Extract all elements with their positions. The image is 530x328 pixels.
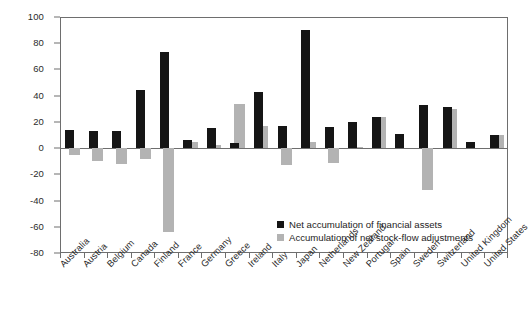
legend-label: Accumulation of net stock-flow adjustmen…	[289, 232, 473, 243]
legend-item-accumulation-of-net-stock-flow-adjustments: Accumulation of net stock-flow adjustmen…	[277, 232, 505, 243]
bar-net-financial-assets	[112, 131, 121, 148]
y-tick-label: 20	[33, 117, 44, 127]
legend-swatch-icon	[277, 234, 284, 241]
bar-stock-flow-adjustments	[422, 148, 433, 190]
y-tick-label: -40	[30, 196, 44, 206]
y-tick-label: -20	[30, 170, 44, 180]
chart-legend: Net accumulation of financial assets Acc…	[277, 219, 505, 243]
bar-net-financial-assets	[136, 90, 145, 148]
bar-stock-flow-adjustments	[140, 148, 151, 158]
bar-net-financial-assets	[466, 142, 475, 149]
bar-net-financial-assets	[89, 131, 98, 148]
y-tick-label: 60	[33, 65, 44, 75]
x-axis-labels: AustraliaAustriaBelgiumCanadaFinlandFran…	[0, 258, 525, 328]
bar-net-financial-assets	[490, 135, 499, 148]
bar-net-financial-assets	[348, 122, 357, 148]
bar-net-financial-assets	[443, 107, 452, 148]
y-tick-label: 0	[39, 143, 44, 153]
y-tick-label: -60	[30, 222, 44, 232]
bar-stock-flow-adjustments	[328, 148, 339, 162]
bar-stock-flow-adjustments	[92, 148, 103, 161]
bar-stock-flow-adjustments	[69, 148, 80, 155]
bar-net-financial-assets	[372, 117, 381, 148]
y-tick-label: 80	[33, 38, 44, 48]
bar-stock-flow-adjustments	[116, 148, 127, 164]
bar-net-financial-assets	[278, 126, 287, 148]
bar-net-financial-assets	[207, 128, 216, 148]
y-tick-label: -80	[30, 248, 44, 258]
legend-item-net-accumulation-of-financial-assets: Net accumulation of financial assets	[277, 219, 505, 230]
bar-net-financial-assets	[301, 30, 310, 148]
bar-net-financial-assets	[419, 105, 428, 148]
bar-net-financial-assets	[160, 52, 169, 148]
y-tick-label: 40	[33, 91, 44, 101]
bar-stock-flow-adjustments	[281, 148, 292, 165]
bar-stock-flow-adjustments	[234, 104, 245, 149]
bar-net-financial-assets	[230, 143, 239, 148]
y-tick-label: 100	[28, 12, 44, 22]
bar-stock-flow-adjustments	[163, 148, 174, 232]
bar-net-financial-assets	[325, 127, 334, 148]
legend-label: Net accumulation of financial assets	[289, 219, 442, 230]
bars-layer	[60, 17, 508, 253]
legend-swatch-icon	[277, 221, 284, 228]
bar-net-financial-assets	[183, 140, 192, 148]
bar-net-financial-assets	[254, 92, 263, 148]
bar-net-financial-assets	[395, 134, 404, 148]
bar-net-financial-assets	[65, 130, 74, 148]
